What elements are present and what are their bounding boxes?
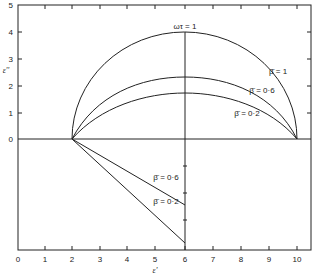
y-axis-label: ε'' xyxy=(3,66,10,75)
x-tick-labels: 0 1 2 3 4 5 6 7 8 9 10 xyxy=(16,255,302,264)
svg-text:4: 4 xyxy=(125,255,130,264)
chart-canvas: 0 1 2 3 4 5 6 7 8 9 10 0 1 2 3 4 5 ε' ε'… xyxy=(0,0,316,275)
svg-text:1: 1 xyxy=(9,109,14,118)
svg-text:3: 3 xyxy=(98,255,103,264)
annotation-beta-0-6-upper: β̄ = 0·6 xyxy=(249,86,275,95)
svg-text:9: 9 xyxy=(267,255,272,264)
x-ticks xyxy=(45,5,297,250)
line-beta-0-2 xyxy=(72,139,185,243)
annotation-beta-1: β̄ = 1 xyxy=(269,67,288,76)
svg-text:4: 4 xyxy=(9,28,14,37)
svg-text:3: 3 xyxy=(9,55,14,64)
svg-text:5: 5 xyxy=(9,1,14,10)
line-beta-0-6 xyxy=(72,139,185,205)
svg-text:6: 6 xyxy=(183,255,188,264)
annotation-beta-0-2-lower: β̄ = 0·2 xyxy=(153,197,179,206)
svg-text:0: 0 xyxy=(16,255,21,264)
svg-text:5: 5 xyxy=(153,255,158,264)
plot-frame xyxy=(18,5,311,250)
svg-text:2: 2 xyxy=(9,82,14,91)
svg-text:7: 7 xyxy=(211,255,216,264)
svg-text:1: 1 xyxy=(43,255,48,264)
svg-text:10: 10 xyxy=(293,255,302,264)
svg-text:8: 8 xyxy=(239,255,244,264)
svg-text:2: 2 xyxy=(70,255,75,264)
annotation-beta-0-6-lower: β̄ = 0·6 xyxy=(153,173,179,182)
svg-text:0: 0 xyxy=(9,135,14,144)
annotation-beta-0-2-upper: β̄ = 0·2 xyxy=(234,109,260,118)
y-ticks xyxy=(18,32,311,220)
y-tick-labels: 0 1 2 3 4 5 xyxy=(9,1,14,144)
annotation-omega-tau: ωτ = 1 xyxy=(174,22,197,31)
x-axis-label: ε' xyxy=(153,266,158,275)
